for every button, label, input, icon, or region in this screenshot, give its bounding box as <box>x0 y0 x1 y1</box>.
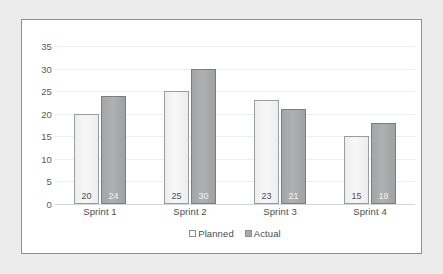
bar-value-label: 21 <box>282 192 305 201</box>
legend-swatch-icon <box>189 230 196 237</box>
bar-planned[interactable]: 23 <box>254 100 279 204</box>
y-tick-label: 15 <box>41 131 52 142</box>
bar-value-label: 20 <box>75 192 98 201</box>
y-tick-label: 10 <box>41 153 52 164</box>
plot-region: 35302520151050 2024253023211518 Sprint 1… <box>22 20 421 253</box>
bar-group: 2024 <box>55 46 145 204</box>
chart-legend[interactable]: PlannedActual <box>55 228 415 239</box>
bar-group: 2530 <box>145 46 235 204</box>
y-tick-label: 30 <box>41 63 52 74</box>
legend-swatch-icon <box>245 230 252 237</box>
x-tick-label: Sprint 1 <box>55 206 145 217</box>
bar-actual[interactable]: 18 <box>371 123 396 204</box>
legend-label: Actual <box>254 228 281 239</box>
chart-canvas: 35302520151050 2024253023211518 Sprint 1… <box>0 0 443 274</box>
bar-value-label: 25 <box>165 192 188 201</box>
bar-group: 1518 <box>325 46 415 204</box>
bar-value-label: 18 <box>372 192 395 201</box>
bar-value-label: 30 <box>192 192 215 201</box>
bar-value-label: 24 <box>102 192 125 201</box>
y-tick-label: 0 <box>47 199 52 210</box>
legend-item-planned[interactable]: Planned <box>189 228 234 239</box>
bar-actual[interactable]: 24 <box>101 96 126 204</box>
y-tick-label: 5 <box>47 176 52 187</box>
bar-actual[interactable]: 21 <box>281 109 306 204</box>
chart-frame[interactable]: 35302520151050 2024253023211518 Sprint 1… <box>21 19 422 254</box>
x-tick-label: Sprint 4 <box>325 206 415 217</box>
bar-actual[interactable]: 30 <box>191 69 216 204</box>
y-tick-label: 20 <box>41 108 52 119</box>
gridline-0 <box>55 204 415 205</box>
x-axis: Sprint 1Sprint 2Sprint 3Sprint 4 <box>55 206 415 217</box>
y-axis: 35302520151050 <box>22 46 52 204</box>
bar-group: 2321 <box>235 46 325 204</box>
bar-value-label: 15 <box>345 192 368 201</box>
y-tick-label: 35 <box>41 41 52 52</box>
bars-layer: 2024253023211518 <box>55 46 415 204</box>
y-tick-label: 25 <box>41 86 52 97</box>
x-tick-label: Sprint 3 <box>235 206 325 217</box>
bar-planned[interactable]: 15 <box>344 136 369 204</box>
bar-planned[interactable]: 20 <box>74 114 99 204</box>
x-tick-label: Sprint 2 <box>145 206 235 217</box>
bar-value-label: 23 <box>255 192 278 201</box>
bar-planned[interactable]: 25 <box>164 91 189 204</box>
legend-label: Planned <box>198 228 234 239</box>
legend-item-actual[interactable]: Actual <box>245 228 281 239</box>
